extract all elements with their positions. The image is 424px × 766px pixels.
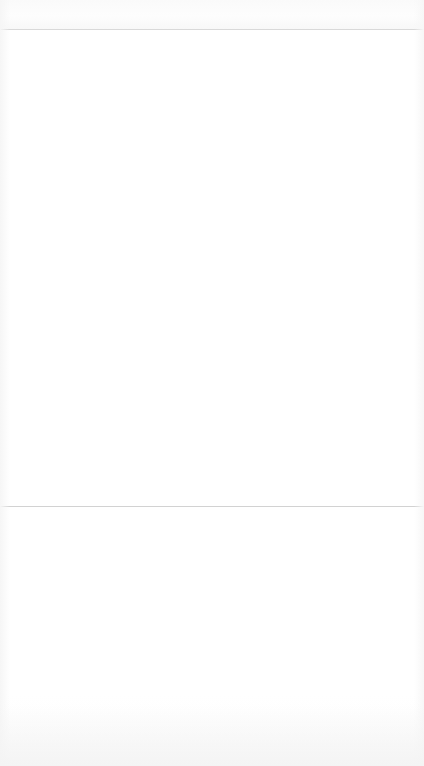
lower-panel[interactable] — [0, 507, 424, 766]
main-content-area[interactable] — [0, 30, 424, 506]
top-bar-surface — [0, 0, 424, 29]
top-bar — [0, 0, 424, 29]
lower-panel-surface — [0, 507, 424, 766]
app-viewport — [0, 0, 424, 766]
content-placeholder-text — [0, 30, 424, 506]
